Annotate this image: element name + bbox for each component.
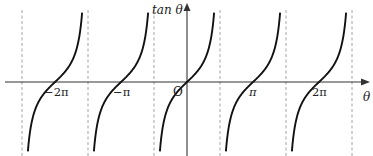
y-axis-arrow-icon [184, 3, 191, 11]
tick-label-minus-2pi: −2π [44, 85, 69, 99]
tan-graph: tan θ θ O −2π −π π 2π [0, 0, 373, 156]
tick-label-pi: π [248, 85, 257, 99]
tick-label-2pi: 2π [312, 85, 327, 99]
origin-label: O [173, 85, 183, 99]
y-axis-label: tan θ [152, 3, 184, 17]
x-axis-arrow-icon [361, 79, 370, 86]
tick-label-minus-pi: −π [113, 85, 131, 99]
x-axis-label: θ [363, 90, 371, 104]
